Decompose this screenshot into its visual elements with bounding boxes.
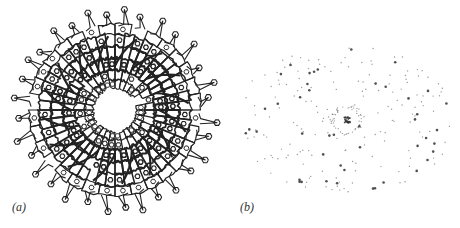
diffraction-pattern-image (230, 0, 460, 228)
ring-structure-image (0, 0, 230, 228)
panel-a: (a) (0, 0, 230, 228)
panel-label-a: (a) (12, 200, 26, 215)
panel-b: (b) (230, 0, 460, 228)
panel-label-b: (b) (240, 200, 254, 215)
